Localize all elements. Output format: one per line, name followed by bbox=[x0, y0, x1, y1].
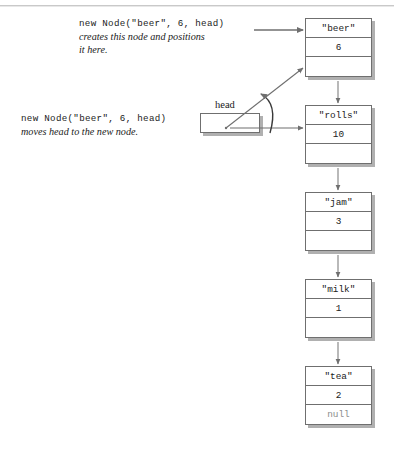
list-node-tea: "tea" 2 null bbox=[305, 366, 372, 425]
list-node-milk: "milk" 1 bbox=[305, 279, 372, 338]
head-variable-box bbox=[200, 113, 260, 133]
annotation-move-code: new Node("beer", 6, head) bbox=[21, 113, 166, 124]
diagram-canvas: new Node("beer", 6, head) creates this n… bbox=[0, 0, 394, 452]
annotation-create-code: new Node("beer", 6, head) bbox=[79, 18, 224, 29]
node-next-cell bbox=[306, 57, 371, 76]
node-next-null-cell: null bbox=[306, 405, 371, 424]
node-item-cell: "rolls" bbox=[306, 106, 371, 125]
node-count-cell: 6 bbox=[306, 38, 371, 57]
node-next-cell bbox=[306, 144, 371, 163]
head-variable-label: head bbox=[215, 99, 235, 110]
node-count-cell: 3 bbox=[306, 212, 371, 231]
annotation-move-head: new Node("beer", 6, head) moves head to … bbox=[21, 113, 166, 139]
node-next-cell bbox=[306, 318, 371, 337]
annotation-create-note-line-2: it here. bbox=[79, 44, 224, 57]
annotation-move-note-line-1: moves head to the new node. bbox=[21, 126, 166, 139]
node-count-cell: 10 bbox=[306, 125, 371, 144]
list-node-jam: "jam" 3 bbox=[305, 192, 372, 251]
node-item-cell: "beer" bbox=[306, 19, 371, 38]
node-item-cell: "jam" bbox=[306, 193, 371, 212]
list-node-rolls: "rolls" 10 bbox=[305, 105, 372, 164]
curved-move-arrow bbox=[261, 94, 273, 133]
node-item-cell: "tea" bbox=[306, 367, 371, 386]
node-count-cell: 1 bbox=[306, 299, 371, 318]
annotation-create-node: new Node("beer", 6, head) creates this n… bbox=[79, 18, 224, 56]
node-item-cell: "milk" bbox=[306, 280, 371, 299]
page-header-rule-shadow bbox=[0, 6, 394, 7]
node-next-cell bbox=[306, 231, 371, 250]
annotation-create-note-line-1: creates this node and positions bbox=[79, 31, 224, 44]
node-count-cell: 2 bbox=[306, 386, 371, 405]
list-node-beer: "beer" 6 bbox=[305, 18, 372, 77]
